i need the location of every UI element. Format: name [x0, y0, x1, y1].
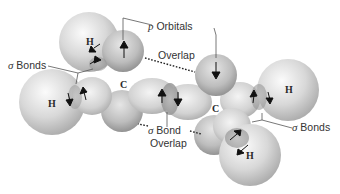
- atom-label-h-top-left: H: [86, 36, 94, 47]
- atom-label-h-right: H: [285, 84, 293, 95]
- sigma-bond-overlap-label-line2: Overlap: [150, 137, 187, 149]
- ethylene-orbital-diagram: H H C C H H: [0, 0, 340, 194]
- atom-label-h-left: H: [48, 98, 56, 109]
- sigma-bond-overlap-label-line1: σ Bond: [148, 124, 181, 136]
- sigma-bonds-label-right: σ Bonds: [292, 121, 330, 133]
- atom-label-c-left: C: [120, 79, 127, 90]
- overlap-label-top: Overlap: [158, 49, 195, 61]
- p-orbitals-label: p Orbitals: [147, 20, 193, 32]
- sigma-bonds-label-left: σ Bonds: [8, 59, 46, 71]
- atom-label-h-bottom-right: H: [246, 150, 254, 161]
- atom-label-c-right: C: [212, 103, 219, 114]
